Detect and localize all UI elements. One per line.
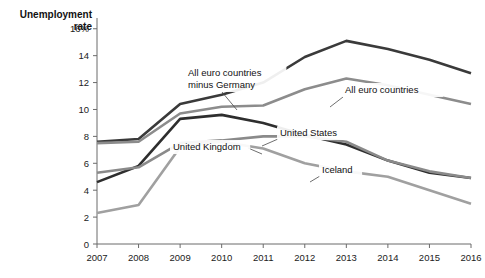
series-annotation-label: Iceland bbox=[322, 164, 353, 175]
y-tick-label: 12 bbox=[78, 77, 89, 88]
y-tick-label: 2 bbox=[84, 212, 89, 223]
annotation-leader-line bbox=[262, 139, 278, 146]
unemployment-rate-line-chart: Unemployment rate 0246810121416% 2007200… bbox=[0, 0, 485, 278]
series-annotation-label: minus Germany bbox=[188, 79, 255, 90]
x-tick-label: 2008 bbox=[128, 252, 149, 263]
series-line bbox=[97, 115, 471, 182]
chart-canvas: Unemployment rate 0246810121416% 2007200… bbox=[0, 0, 485, 278]
x-tick-label: 2007 bbox=[86, 252, 107, 263]
y-tick-label: 10 bbox=[78, 104, 89, 115]
x-tick-label: 2011 bbox=[253, 252, 273, 263]
y-axis-ticks: 0246810121416% bbox=[70, 23, 97, 249]
y-tick-label: 6 bbox=[84, 158, 89, 169]
y-tick-label: 0 bbox=[84, 239, 89, 250]
y-tick-label: 16% bbox=[70, 23, 90, 34]
x-tick-label: 2015 bbox=[419, 252, 440, 263]
x-tick-label: 2010 bbox=[211, 252, 232, 263]
y-axis-title-line1: Unemployment bbox=[20, 9, 93, 20]
x-tick-label: 2016 bbox=[460, 252, 481, 263]
y-tick-label: 14 bbox=[78, 50, 89, 61]
annotation-leader-line bbox=[330, 97, 343, 107]
x-tick-label: 2014 bbox=[377, 252, 398, 263]
series-annotation-label: All euro countries bbox=[188, 67, 262, 78]
x-axis-ticks: 2007200820092010201120122013201420152016 bbox=[86, 244, 481, 263]
annotation-labels-group: All euro countriesminus GermanyAll euro … bbox=[170, 66, 443, 177]
series-annotation-label: United States bbox=[280, 127, 337, 138]
x-tick-label: 2012 bbox=[294, 252, 315, 263]
y-tick-label: 8 bbox=[84, 131, 89, 142]
x-tick-label: 2013 bbox=[336, 252, 357, 263]
series-line bbox=[97, 142, 471, 213]
annotation-leader-line bbox=[310, 176, 320, 182]
series-annotation-label: All euro countries bbox=[345, 84, 419, 95]
x-tick-label: 2009 bbox=[170, 252, 191, 263]
y-tick-label: 4 bbox=[84, 185, 89, 196]
series-annotation-label: United Kingdom bbox=[173, 141, 241, 152]
